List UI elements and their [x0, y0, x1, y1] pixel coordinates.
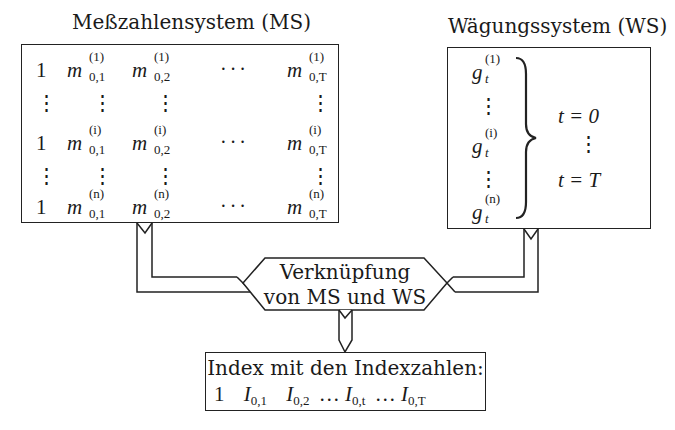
result-I02: I0,2: [286, 382, 309, 406]
ws-vdots: ⋮: [578, 132, 599, 157]
ms-row1-m02: m(1)0,2: [132, 58, 147, 83]
ws-vdots: ⋮: [478, 167, 499, 192]
ms-connector-inner: [152, 223, 237, 277]
ms-rowi-m0T: m(i)0,T: [287, 131, 302, 156]
ms-vdots: ⋮: [92, 91, 113, 116]
ws-box: g(1)t ⋮ g(i)t ⋮ g(n)t t = 0 ⋮ t = T: [447, 47, 651, 229]
ms-title: Meßzahlensystem (MS): [72, 10, 311, 34]
ws-gi: g(i)t: [472, 134, 483, 159]
ms-arrow-tail-icon: [137, 223, 152, 233]
result-one: 1: [214, 382, 225, 406]
ms-row1-one: 1: [36, 58, 47, 83]
result-box: Index mit den Indexzahlen: 1 I0,1 I0,2 ……: [205, 352, 486, 411]
result-dots: …: [375, 382, 396, 406]
ms-rown-m02: m(n)0,2: [132, 195, 147, 220]
ms-vdots: ⋮: [36, 91, 57, 116]
ms-rown-one: 1: [36, 195, 47, 220]
ms-vdots: ⋮: [310, 91, 331, 116]
ms-box: 1 m(1)0,1 m(1)0,2 ··· m(1)0,T ⋮ ⋮ ⋮ ⋮ 1 …: [21, 44, 339, 223]
ms-vdots: ⋮: [36, 164, 57, 189]
ms-row1-m0T: m(1)0,T: [287, 58, 302, 83]
result-I0t: I0,t: [345, 382, 365, 406]
ms-rown-hdots: ···: [220, 194, 249, 219]
ws-range-start: t = 0: [558, 104, 599, 129]
merge-label-line1: Verknüpfung: [255, 260, 435, 284]
ms-row1-hdots: ···: [220, 57, 249, 82]
ws-arrow-tail-icon: [524, 229, 538, 239]
result-index-row: 1 I0,1 I0,2 … I0,t … I0,T: [214, 382, 426, 407]
ws-connector-inner: [453, 229, 524, 277]
result-dots: …: [319, 382, 340, 406]
result-I01: I0,1: [244, 382, 267, 406]
ms-rowi-one: 1: [36, 131, 47, 156]
ms-rown-m01: m(n)0,1: [67, 195, 82, 220]
ws-vdots: ⋮: [478, 94, 499, 119]
ws-title: Wägungssystem (WS): [448, 14, 667, 38]
ms-vdots: ⋮: [155, 91, 176, 116]
ws-gn: g(n)t: [472, 200, 483, 225]
result-title: Index mit den Indexzahlen:: [206, 356, 485, 380]
ms-rowi-m01: m(i)0,1: [67, 131, 82, 156]
ws-connector-outer: [455, 229, 538, 292]
ws-g1: g(1)t: [472, 60, 483, 85]
ms-rown-m0T: m(n)0,T: [287, 195, 302, 220]
ms-connector-outer: [137, 223, 252, 292]
result-I0T: I0,T: [401, 382, 426, 406]
merge-label-line2: von MS und WS: [255, 285, 435, 309]
ms-rowi-m02: m(i)0,2: [132, 131, 147, 156]
ms-row1-m01: m(1)0,1: [67, 58, 82, 83]
ws-range-end: t = T: [558, 168, 600, 193]
ms-rowi-hdots: ···: [220, 130, 249, 155]
right-brace-icon: [512, 54, 542, 224]
